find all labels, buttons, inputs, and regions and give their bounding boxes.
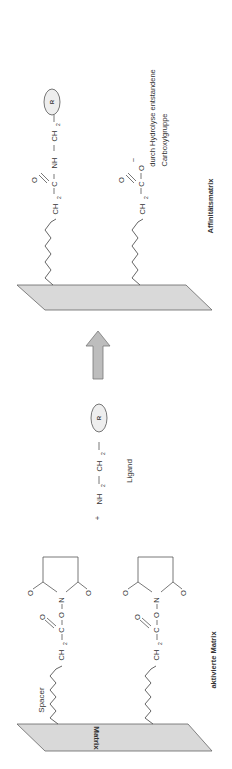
svg-text:N: N xyxy=(152,597,161,602)
svg-text:O: O xyxy=(121,590,130,596)
svg-text:CH: CH xyxy=(95,461,104,472)
hydrolysis-note-line2: Carboxylgruppe xyxy=(160,114,169,167)
matrix-label: Matrix xyxy=(92,726,101,750)
svg-text:O: O xyxy=(38,614,47,620)
diagram-canvas: Matrix Spacer CH 2 C O O N O O CH 2 C O … xyxy=(0,0,232,769)
svg-text:2: 2 xyxy=(100,484,106,487)
nhs-ester-2: CH 2 C O O N O O xyxy=(121,557,188,660)
spacer-chain-4 xyxy=(132,219,143,285)
carboxylate-group: CH 2 C O O − xyxy=(117,157,149,214)
svg-text:O: O xyxy=(30,177,39,183)
hydrolysis-note-line1: durch Hydrolyse entstandene xyxy=(148,69,157,167)
matrix-plane-right xyxy=(17,285,212,310)
svg-text:C: C xyxy=(50,181,59,187)
svg-text:−: − xyxy=(129,157,138,162)
svg-text:R: R xyxy=(96,415,102,420)
svg-text:CH: CH xyxy=(152,650,161,661)
svg-text:NH: NH xyxy=(50,158,59,169)
svg-text:O: O xyxy=(133,614,142,620)
svg-text:+: + xyxy=(93,515,102,520)
reaction-arrow xyxy=(86,331,110,379)
svg-text:O: O xyxy=(26,590,35,596)
matrix-plane-left xyxy=(17,724,212,751)
caption-affinity-matrix: Affinitätsmatrix xyxy=(206,178,215,234)
svg-text:N: N xyxy=(57,597,66,602)
svg-text:C: C xyxy=(137,181,146,187)
svg-text:CH: CH xyxy=(57,650,66,661)
svg-text:O: O xyxy=(152,612,161,618)
svg-text:2: 2 xyxy=(100,452,106,455)
amide-bond-ligand: CH 2 C O NH CH 2 R xyxy=(30,89,62,214)
svg-text:2: 2 xyxy=(143,196,149,199)
nhs-ester-1: CH 2 C O O N O O xyxy=(26,557,93,660)
svg-text:2: 2 xyxy=(55,123,61,126)
svg-text:2: 2 xyxy=(157,642,163,645)
svg-text:O: O xyxy=(57,612,66,618)
spacer-label: Spacer xyxy=(37,687,46,713)
svg-text:CH: CH xyxy=(50,131,59,142)
ligand-formula: + NH 2 CH 2 R xyxy=(91,404,107,520)
svg-text:CH: CH xyxy=(138,204,147,215)
svg-text:O: O xyxy=(117,177,126,183)
svg-text:2: 2 xyxy=(62,642,68,645)
svg-text:NH: NH xyxy=(95,494,104,505)
ligand-label: Ligand xyxy=(125,459,134,483)
svg-text:O: O xyxy=(137,165,146,171)
caption-activated-matrix: aktivierte Matrix xyxy=(209,631,218,689)
spacer-chain-2 xyxy=(145,666,156,724)
svg-text:C: C xyxy=(57,627,66,633)
svg-text:2: 2 xyxy=(56,196,62,199)
svg-text:C: C xyxy=(152,627,161,633)
spacer-chain-1 xyxy=(50,666,62,724)
svg-text:R: R xyxy=(49,99,55,104)
svg-text:O: O xyxy=(84,590,93,596)
svg-text:O: O xyxy=(179,590,188,596)
svg-text:CH: CH xyxy=(51,204,60,215)
spacer-chain-3 xyxy=(45,219,56,285)
